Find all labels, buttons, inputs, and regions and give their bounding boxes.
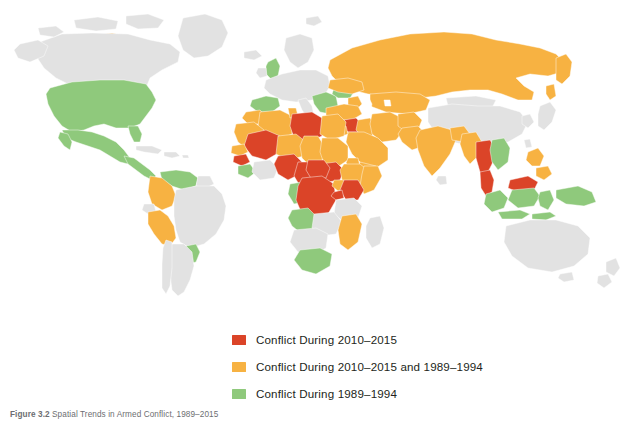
region-asia — [416, 102, 596, 220]
country-peru — [148, 210, 176, 246]
country-scandinavia — [284, 34, 314, 68]
country-mozambique — [338, 214, 362, 250]
legend-swatch-red — [232, 335, 246, 345]
island-lesser-sunda — [532, 212, 556, 220]
legend-swatch-orange — [232, 362, 246, 372]
island-tasmania — [558, 272, 574, 282]
island-borneo-indonesia — [508, 188, 540, 208]
country-ivory-coast — [252, 160, 278, 180]
island-sulawesi — [538, 190, 554, 210]
map-legend: Conflict During 2010–2015 Conflict Durin… — [232, 326, 632, 407]
island-taiwan — [524, 139, 532, 148]
country-kazakhstan — [370, 92, 430, 114]
legend-item-recent-conflict: Conflict During 2010–2015 — [232, 326, 632, 353]
country-egypt — [320, 114, 346, 140]
country-mali — [244, 130, 280, 160]
legend-label-recent-conflict: Conflict During 2010–2015 — [256, 334, 397, 346]
country-australia — [504, 220, 590, 272]
country-canada-arctic-2 — [126, 14, 164, 29]
island-new-zealand — [606, 258, 620, 276]
region-north-america — [14, 14, 228, 180]
country-south-africa — [294, 248, 332, 274]
legend-label-earlier-conflict: Conflict During 1989–1994 — [256, 388, 397, 400]
country-us-florida — [128, 126, 142, 142]
figure-caption-number: Figure 3.2 — [10, 410, 50, 419]
country-united-states — [46, 80, 156, 132]
island-cuba — [136, 146, 162, 154]
country-russia-sakhalin — [546, 84, 556, 100]
legend-label-both-periods: Conflict During 2010–2015 and 1989–1994 — [256, 361, 483, 373]
island-hispaniola — [164, 152, 180, 158]
figure-caption-text: Spatial Trends in Armed Conflict, 1989–2… — [52, 410, 218, 419]
country-japan — [538, 102, 556, 130]
island-java — [498, 210, 530, 219]
country-india — [416, 126, 456, 176]
legend-item-earlier-conflict: Conflict During 1989–1994 — [232, 380, 632, 407]
island-sri-lanka — [436, 176, 447, 185]
world-map — [0, 0, 633, 310]
region-oceania — [504, 220, 620, 288]
country-philippines — [526, 148, 544, 166]
island-new-zealand-south — [597, 274, 612, 288]
legend-swatch-green — [232, 389, 246, 399]
island-svalbard — [306, 16, 322, 26]
region-south-america — [142, 170, 226, 296]
country-papua-new-guinea — [556, 186, 596, 206]
country-spain — [250, 96, 280, 112]
figure-caption: Figure 3.2 Spatial Trends in Armed Confl… — [10, 410, 218, 419]
country-chile — [162, 240, 172, 294]
country-laos-cambodia-vietnam — [490, 138, 510, 170]
figure-container: Conflict During 2010–2015 Conflict Durin… — [0, 0, 633, 421]
country-mexico — [62, 130, 130, 164]
world-map-svg — [0, 0, 633, 310]
country-iceland — [244, 50, 262, 60]
country-russia-kamchatka — [556, 54, 572, 84]
island-puerto-rico — [182, 155, 189, 158]
island-madagascar — [366, 216, 384, 248]
country-brazil — [174, 186, 226, 248]
country-greenland — [178, 14, 228, 58]
country-philippines-south — [536, 166, 552, 180]
legend-item-both-periods: Conflict During 2010–2015 and 1989–1994 — [232, 353, 632, 380]
sea-aral — [384, 100, 391, 106]
country-ireland — [256, 68, 267, 78]
country-canada-arctic-1 — [74, 17, 118, 31]
